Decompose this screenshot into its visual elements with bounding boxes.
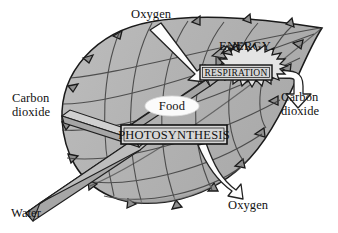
respiration-label: RESPIRATION (205, 68, 268, 78)
label-water-in: Water (11, 207, 41, 221)
food-ellipse[interactable]: Food (145, 96, 199, 116)
label-oxygen-in: Oxygen (131, 8, 171, 22)
energy-label: ENERGY (219, 39, 271, 53)
label-carbon-dioxide-in-line1: Carbon (12, 92, 49, 106)
label-carbon-dioxide-out-line1: Carbon (281, 91, 318, 105)
label-oxygen-out: Oxygen (228, 199, 268, 213)
diagram-canvas: ENERGY RESPIRATION PHOTOSYNTHESIS Food O… (0, 0, 338, 233)
label-carbon-dioxide-in-line2: dioxide (12, 106, 50, 120)
photosynthesis-label: PHOTOSYNTHESIS (118, 128, 230, 142)
food-label: Food (159, 99, 186, 113)
respiration-box[interactable]: RESPIRATION (200, 65, 272, 80)
label-carbon-dioxide-out-line2: dioxide (281, 105, 319, 119)
photosynthesis-box[interactable]: PHOTOSYNTHESIS (118, 125, 230, 144)
